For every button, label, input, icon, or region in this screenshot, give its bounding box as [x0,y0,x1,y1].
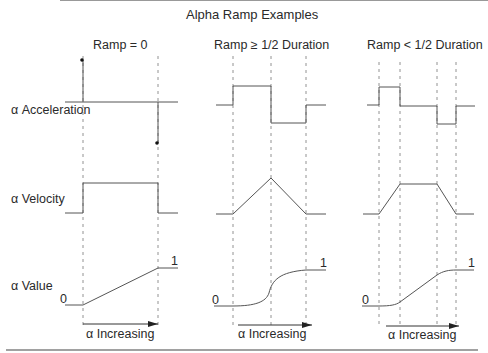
alpha-ramp-diagram: Alpha Ramp Examples Ramp = 0 Ramp ≥ 1/2 … [0,0,488,353]
acceleration-curve [367,87,475,124]
velocity-curve [65,183,178,213]
diagram-title: Alpha Ramp Examples [186,8,318,21]
arrow-label-ramp-half-or-more: α Increasing [238,328,306,341]
row-label-acceleration: α Acceleration [11,104,91,117]
row-label-value: α Value [11,280,53,293]
panel-ramp-less-than-half [362,62,475,328]
impulse-dot-up [80,58,84,62]
time-markers [233,56,306,328]
arrow-label-ramp-less-than-half: α Increasing [388,329,456,342]
impulse-dot-down [155,141,159,145]
arrow-label-ramp-zero: α Increasing [86,328,154,341]
value-curve [214,270,326,306]
row-label-velocity: α Velocity [11,193,65,206]
value-curve [65,268,178,305]
panel-ramp-half-or-more [214,56,326,328]
panel-ramp-zero [65,56,178,328]
acceleration-curve [65,60,178,143]
value-end-label: 1 [468,257,475,270]
value-start-label: 0 [362,294,369,307]
velocity-curve [363,184,474,214]
value-start-label: 0 [212,294,219,307]
value-end-label: 1 [320,257,327,270]
panel-heading-ramp-half-or-more: Ramp ≥ 1/2 Duration [214,39,329,52]
acceleration-curve [216,86,326,123]
time-markers [83,56,158,328]
panel-heading-ramp-zero: Ramp = 0 [93,39,148,52]
value-start-label: 0 [60,293,67,306]
panel-heading-ramp-less-than-half: Ramp < 1/2 Duration [367,39,483,52]
value-end-label: 1 [171,255,178,268]
diagram-graphics [0,0,488,353]
